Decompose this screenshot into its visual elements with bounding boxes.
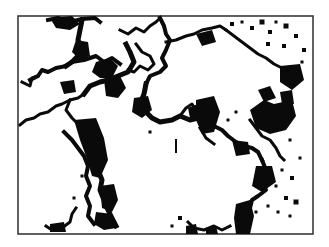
cluster-dot xyxy=(282,44,286,48)
cluster-dot xyxy=(277,211,280,214)
cluster-dot xyxy=(81,175,84,178)
cluster-branches xyxy=(20,18,296,230)
cluster-dot xyxy=(267,205,270,208)
cluster-dot xyxy=(281,169,284,172)
cluster-blob xyxy=(280,90,294,104)
cluster-branch xyxy=(206,122,262,160)
cluster-dot xyxy=(250,26,254,30)
cluster-dot xyxy=(73,197,76,200)
cluster-blob xyxy=(258,86,276,102)
cluster-blob xyxy=(60,80,76,94)
cluster-dot xyxy=(268,30,272,34)
cluster-dot xyxy=(227,119,230,122)
cluster-dot xyxy=(289,215,292,218)
cluster-dot xyxy=(171,225,174,228)
cluster-dot xyxy=(294,200,299,205)
cluster-dot xyxy=(294,34,298,38)
cluster-dot xyxy=(235,111,238,114)
cluster-dot xyxy=(230,22,234,26)
cluster-dot xyxy=(302,48,306,52)
cluster-dot xyxy=(290,176,294,180)
cluster-dot xyxy=(178,216,182,220)
cluster-dot xyxy=(241,21,244,24)
cluster-dot xyxy=(275,185,278,188)
cluster-branch xyxy=(120,18,160,34)
cluster-dot xyxy=(266,42,270,46)
cluster-dot xyxy=(260,20,265,25)
cluster-branch xyxy=(22,76,38,86)
cluster-dot xyxy=(149,131,152,134)
cluster-dot xyxy=(284,196,288,200)
cluster-dot xyxy=(289,139,292,142)
cluster-branch xyxy=(226,30,296,76)
cluster-dot xyxy=(301,61,304,64)
cluster-dot xyxy=(275,21,278,24)
cluster-dot xyxy=(255,211,258,214)
cluster-dot xyxy=(299,157,302,160)
percolation-cluster-figure xyxy=(0,0,329,247)
cluster-branch xyxy=(166,26,226,42)
cluster-dot xyxy=(284,24,289,29)
